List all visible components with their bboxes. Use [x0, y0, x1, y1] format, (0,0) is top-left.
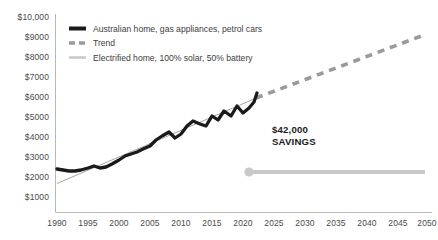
y-tick-label: $9000 — [25, 32, 49, 42]
electrified-home-start-dot — [244, 167, 253, 176]
legend-item-trend: Trend — [69, 38, 115, 48]
x-tick-label: 2025 — [264, 218, 283, 228]
x-tick-label: 2050 — [417, 218, 436, 228]
y-axis-tick-labels: $10,000 $9000 $8000 $7000 $6000 $5000 $4… — [18, 12, 50, 202]
savings-label-text: SAVINGS — [272, 136, 316, 147]
y-tick-label: $8000 — [25, 52, 49, 62]
y-tick-label: $7000 — [25, 72, 49, 82]
x-tick-label: 1995 — [78, 218, 97, 228]
x-tick-label: 2000 — [109, 218, 128, 228]
y-tick-label: $10,000 — [18, 12, 50, 22]
legend-label: Australian home, gas appliances, petrol … — [93, 24, 262, 34]
y-tick-label: $5000 — [25, 112, 49, 122]
savings-amount-text: $42,000 — [272, 124, 308, 135]
x-tick-label: 2030 — [295, 218, 314, 228]
x-tick-label: 2035 — [326, 218, 345, 228]
energy-cost-line-chart: $10,000 $9000 $8000 $7000 $6000 $5000 $4… — [0, 0, 438, 240]
x-tick-label: 1990 — [47, 218, 66, 228]
historical-cost-line — [57, 93, 257, 171]
chart-container: $10,000 $9000 $8000 $7000 $6000 $5000 $4… — [0, 0, 438, 240]
legend-item-australian-home: Australian home, gas appliances, petrol … — [69, 24, 262, 34]
y-tick-label: $4000 — [25, 132, 49, 142]
legend-item-electrified-home: Electrified home, 100% solar, 50% batter… — [69, 53, 253, 63]
y-tick-label: $3000 — [25, 152, 49, 162]
chart-legend: Australian home, gas appliances, petrol … — [69, 24, 262, 63]
x-tick-label: 2010 — [171, 218, 190, 228]
y-tick-label: $6000 — [25, 92, 49, 102]
y-tick-label: $2000 — [25, 172, 49, 182]
x-tick-label: 2015 — [202, 218, 221, 228]
trend-line-projection — [256, 35, 424, 98]
legend-label: Trend — [93, 38, 115, 48]
legend-label: Electrified home, 100% solar, 50% batter… — [93, 53, 253, 63]
savings-annotation: $42,000 SAVINGS — [272, 124, 316, 147]
x-axis-tick-labels: 1990 1995 2000 2005 2010 2015 2020 2025 … — [47, 218, 436, 228]
x-tick-label: 2040 — [357, 218, 376, 228]
y-tick-label: $1000 — [25, 192, 49, 202]
x-tick-label: 2020 — [233, 218, 252, 228]
x-tick-label: 2005 — [140, 218, 159, 228]
x-tick-label: 2045 — [388, 218, 407, 228]
